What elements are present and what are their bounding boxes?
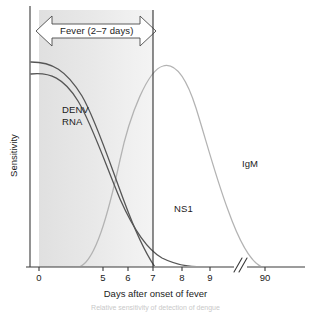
denv-rna-curve-label: DENV RNA: [62, 104, 89, 128]
x-tick-label-8: 8: [179, 272, 184, 283]
figure-caption-partial: Relative sensitivity of detection of den…: [0, 304, 311, 313]
x-tick-label-5: 5: [100, 272, 105, 283]
x-tick-label-0: 0: [36, 272, 41, 283]
x-tick-label-7: 7: [150, 272, 155, 283]
x-tick-label-6: 6: [125, 272, 130, 283]
denv-rna-label-line1: DENV: [62, 104, 89, 116]
denv-rna-label-line2: RNA: [62, 116, 89, 128]
chart-canvas: [0, 0, 311, 314]
ns1-curve-label: NS1: [174, 203, 193, 214]
x-tick-label-90: 90: [260, 272, 271, 283]
igm-curve-label: IgM: [242, 158, 258, 169]
fever-duration-label: Fever (2–7 days): [60, 25, 133, 36]
x-axis-label: Days after onset of fever: [0, 288, 311, 299]
y-axis-label: Sensitivity: [8, 121, 19, 191]
axis-break-icon: [234, 258, 247, 272]
x-tick-label-9: 9: [207, 272, 212, 283]
dengue-diagnostics-figure: Fever (2–7 days) DENV RNA NS1 IgM Sensit…: [0, 0, 311, 314]
x-axis-ticks: [39, 267, 265, 271]
